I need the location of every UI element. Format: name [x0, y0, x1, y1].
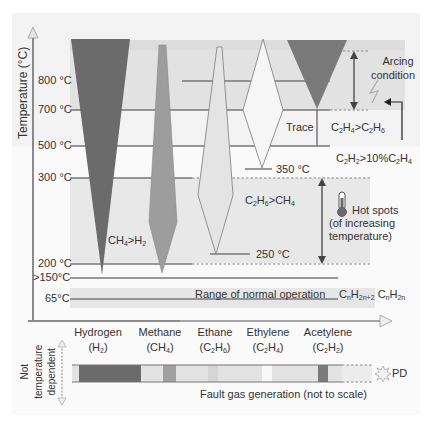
pd-starburst-icon	[375, 366, 391, 382]
arcing-label-line2: condition	[363, 69, 423, 82]
ch4-gt-h2-label: CH4>H2	[108, 234, 146, 248]
hot-spots-line3: temperature)	[329, 230, 392, 243]
alkanes-label: CnH2n+2 CnH2n	[339, 288, 405, 302]
gas-acetylene-name: Acetylene	[298, 326, 358, 339]
hot-spots-line1: Hot spots	[352, 204, 398, 217]
gas-methane-name: Methane	[130, 326, 190, 339]
trace-label: Trace	[286, 121, 314, 134]
gas-hydrogen-formula: (H2)	[68, 341, 128, 355]
c2h2-gt-10pct-c2h4-label: C2H2>10%C2H4	[336, 152, 412, 166]
gas-acetylene-formula: (C2H2)	[298, 341, 358, 355]
normal-range-label: Range of normal operation	[195, 288, 325, 301]
tick-800: 800 °C	[38, 74, 72, 87]
gas-ethane-name: Ethane	[185, 326, 245, 339]
tick-65: 65°C	[45, 292, 70, 305]
tick-300: 300 °C	[38, 171, 72, 184]
tick-150: >150°C	[33, 271, 70, 284]
not-temp-dependent-line3: dependent	[46, 337, 58, 407]
gas-ethane-formula: (C2H6)	[185, 341, 245, 355]
tick-700: 700 °C	[38, 103, 72, 116]
pd-label: PD	[392, 367, 407, 380]
not-temp-dependent-line1: Not	[19, 347, 31, 397]
gas-hydrogen-name: Hydrogen	[68, 326, 128, 339]
c2h4-gt-c2h6-label: C2H4>C2H6	[331, 121, 385, 135]
y-axis-label: Temperature (°C)	[17, 47, 31, 139]
fault-gas-diagram: Temperature (°C) 800 °C 700 °C 500 °C 30…	[0, 0, 430, 429]
tick-200: 200 °C	[38, 257, 72, 270]
not-temp-dependent-line2: temperature	[33, 337, 45, 407]
c2h6-gt-ch4-label: C2H6>CH4	[245, 194, 295, 208]
temp-350-label: 350 °C	[276, 163, 310, 176]
arcing-label-line1: Arcing	[373, 55, 423, 68]
gas-methane-formula: (CH4)	[130, 341, 190, 355]
fault-gas-caption: Fault gas generation (not to scale)	[200, 388, 367, 401]
gas-ethylene-formula: (C2H4)	[238, 341, 298, 355]
thermometer-icon	[338, 192, 347, 217]
hot-spots-line2: (of increasing	[329, 217, 395, 230]
tick-500: 500 °C	[38, 139, 72, 152]
temp-250-label: 250 °C	[256, 248, 290, 261]
fault-gas-bar	[72, 365, 372, 382]
gas-ethylene-name: Ethylene	[238, 326, 298, 339]
